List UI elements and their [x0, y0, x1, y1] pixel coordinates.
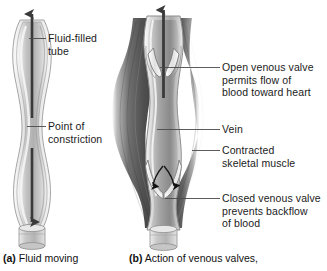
- figure-venous-valves: Fluid-filled tube Point of constriction …: [0, 0, 327, 271]
- panel-a-illustration: [13, 14, 52, 249]
- label-open-venous-valve-line1: Open venous valve: [222, 61, 314, 74]
- label-point-of-constriction-line2: constriction: [48, 133, 102, 146]
- label-open-venous-valve-line3: blood toward heart: [222, 86, 314, 99]
- vein-base-cuff: [150, 225, 177, 250]
- caption-panel-a: (a) Fluid moving: [3, 252, 78, 265]
- caption-panel-a-marker: (a): [3, 252, 16, 264]
- label-fluid-filled-tube-line2: tube: [48, 45, 97, 58]
- label-point-of-constriction-line1: Point of: [48, 120, 102, 133]
- label-closed-venous-valve-line2: prevents backflow: [222, 205, 321, 218]
- label-contracted-skeletal-muscle-line2: skeletal muscle: [222, 157, 295, 170]
- label-point-of-constriction: Point of constriction: [48, 120, 102, 145]
- label-contracted-skeletal-muscle: Contracted skeletal muscle: [222, 144, 295, 169]
- label-vein-line1: Vein: [222, 123, 243, 136]
- tube-base-cuff: [19, 224, 45, 249]
- caption-panel-b-marker: (b): [129, 252, 142, 264]
- label-open-venous-valve: Open venous valve permits flow of blood …: [222, 61, 314, 99]
- label-vein: Vein: [222, 123, 243, 136]
- label-closed-venous-valve-line3: of blood: [222, 217, 321, 230]
- label-contracted-skeletal-muscle-line1: Contracted: [222, 144, 295, 157]
- label-open-venous-valve-line2: permits flow of: [222, 74, 314, 87]
- label-closed-venous-valve-line1: Closed venous valve: [222, 192, 321, 205]
- label-closed-venous-valve: Closed venous valve prevents backflow of…: [222, 192, 321, 230]
- panel-b-illustration: [112, 10, 220, 250]
- caption-panel-a-text: Fluid moving: [19, 252, 79, 264]
- caption-panel-b: (b) Action of venous valves,: [129, 252, 258, 265]
- caption-panel-b-text: Action of venous valves,: [145, 252, 258, 264]
- label-fluid-filled-tube: Fluid-filled tube: [48, 32, 97, 57]
- label-fluid-filled-tube-line1: Fluid-filled: [48, 32, 97, 45]
